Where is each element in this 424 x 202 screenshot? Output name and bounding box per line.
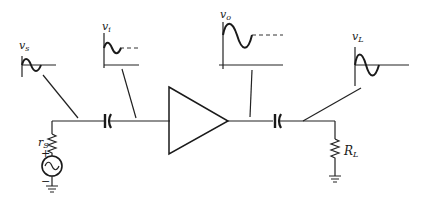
- rl-label: RL: [344, 145, 358, 159]
- vs-pointer-line: [43, 75, 78, 118]
- output-coupling-capacitor: [275, 114, 281, 128]
- vL-pointer-line: [303, 88, 361, 121]
- amplifier-circuit-diagram: vs vi vo vL rS RL + −: [0, 0, 424, 202]
- vo-label: vo: [220, 9, 231, 22]
- vL-label: vL: [352, 31, 364, 44]
- vs-waveform-graph: [22, 56, 56, 77]
- vo-waveform-graph: [219, 22, 283, 69]
- input-coupling-capacitor: [105, 114, 111, 128]
- plus-sign: +: [41, 148, 50, 159]
- vi-pointer-line: [122, 69, 136, 118]
- vi-waveform-graph: [104, 33, 140, 68]
- vL-waveform-graph: [355, 47, 409, 86]
- vs-label: vs: [19, 40, 29, 53]
- vo-pointer-line: [250, 70, 252, 117]
- load-ground-icon: [329, 176, 341, 182]
- minus-sign: −: [41, 176, 50, 187]
- amplifier-triangle: [169, 87, 228, 154]
- vi-label: vi: [102, 21, 111, 34]
- load-resistor-rl: [331, 139, 339, 176]
